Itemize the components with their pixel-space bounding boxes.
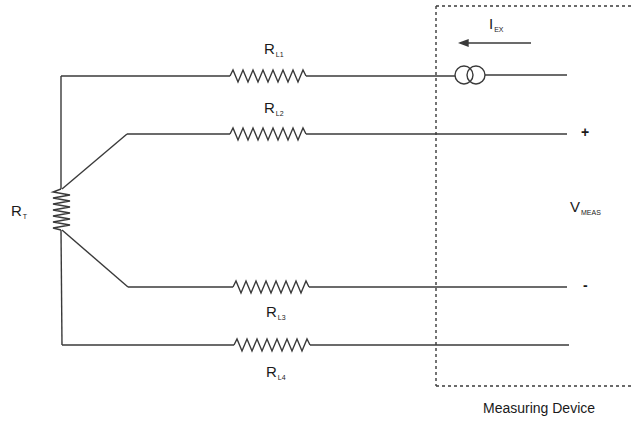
plus-sign: +	[581, 124, 589, 140]
resistor-rl1	[230, 70, 306, 82]
device-boundary-box	[436, 6, 632, 386]
circuit-diagram	[0, 0, 641, 428]
label-rl1: RL1	[264, 40, 284, 58]
label-rt: RT	[11, 202, 27, 220]
resistor-rl3	[233, 281, 309, 293]
measuring-device-caption: Measuring Device	[483, 400, 595, 416]
resistor-rl4	[234, 339, 310, 351]
label-vmeas: VMEAS	[570, 198, 601, 216]
minus-sign: -	[583, 277, 588, 293]
label-rl3: RL3	[266, 303, 286, 321]
label-iex: IEX	[489, 15, 504, 33]
label-rl4: RL4	[266, 363, 286, 381]
label-rl2: RL2	[264, 99, 284, 117]
rt-sensor-resistor	[53, 189, 70, 230]
resistor-rl2	[230, 128, 306, 140]
